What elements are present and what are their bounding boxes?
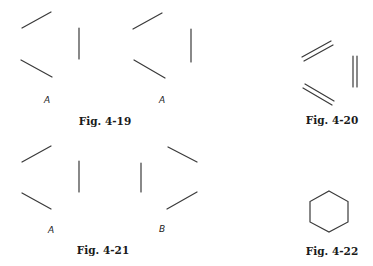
- fig-4-21-fragment-a: A: [22, 146, 79, 235]
- bond-lower-right: [167, 192, 197, 209]
- bond-lower-left: [134, 60, 165, 78]
- figure-caption: Fig. 4-19: [79, 115, 131, 127]
- double-bond-lower-line-2: [303, 88, 332, 105]
- fragment-label-a: A: [158, 95, 165, 105]
- figure-caption: Fig. 4-20: [306, 114, 358, 126]
- figure-canvas: A A Fig. 4-19 Fig. 4-20 A B Fig. 4-21 Fi…: [0, 0, 373, 266]
- bond-lower-left: [22, 193, 51, 209]
- bond-upper-left: [22, 12, 51, 28]
- fig-4-20-double-bonds: [302, 41, 357, 105]
- figure-caption: Fig. 4-22: [306, 245, 358, 257]
- fragment-label-a: A: [47, 225, 54, 235]
- fig-4-19-fragment-a-right: A: [133, 13, 191, 105]
- bond-upper-left: [22, 146, 51, 162]
- hexagon-ring: [310, 191, 348, 232]
- fig-4-21-fragment-b: B: [141, 147, 197, 234]
- figure-caption: Fig. 4-21: [77, 244, 129, 256]
- bond-lower-left: [21, 60, 52, 77]
- bond-upper-right: [168, 147, 197, 162]
- fragment-label-b: B: [159, 224, 165, 234]
- bond-upper-left: [133, 13, 162, 29]
- fragment-label-a: A: [43, 95, 50, 105]
- double-bond-lower-line-1: [305, 84, 334, 101]
- fig-4-19-fragment-a-left: A: [21, 12, 79, 105]
